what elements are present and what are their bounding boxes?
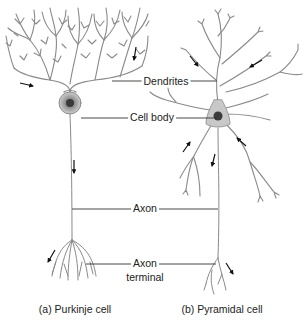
arrow-icon (250, 60, 262, 67)
purkinje-cell (6, 8, 149, 280)
label-axon-terminal-line1: Axon (131, 258, 159, 269)
label-axon-terminal-line2: terminal (126, 271, 163, 283)
pyramidal-arrows (183, 56, 262, 274)
label-cell-body: Cell body (128, 112, 176, 123)
caption-pyramidal-cell: (b) Pyramidal cell (181, 303, 262, 315)
arrow-icon (226, 263, 233, 274)
arrow-icon (190, 56, 198, 66)
pyramidal-axon (218, 128, 219, 258)
pyramidal-cell (150, 9, 302, 294)
pyramidal-dendrites (150, 9, 302, 202)
pyramidal-axon-terminal (204, 258, 226, 294)
purkinje-arrows (20, 47, 136, 262)
arrow-icon (48, 250, 55, 262)
label-dendrites: Dendrites (142, 76, 191, 87)
arrow-icon (237, 138, 246, 146)
arrow-icon (20, 83, 33, 86)
purkinje-axon (70, 114, 72, 240)
purkinje-dendrites (6, 8, 149, 92)
arrow-icon (134, 47, 136, 60)
leader-lines (72, 81, 218, 264)
purkinje-cell-body (59, 91, 81, 115)
arrow-icon (183, 142, 190, 152)
label-axon: Axon (131, 203, 159, 214)
arrow-icon (212, 154, 215, 166)
purkinje-axon-terminal (52, 240, 96, 280)
caption-purkinje-cell: (a) Purkinje cell (39, 303, 111, 315)
